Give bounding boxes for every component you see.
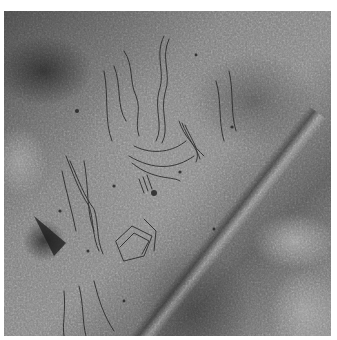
petroglyph-photo [4, 11, 331, 336]
engraved-figures [4, 11, 331, 336]
